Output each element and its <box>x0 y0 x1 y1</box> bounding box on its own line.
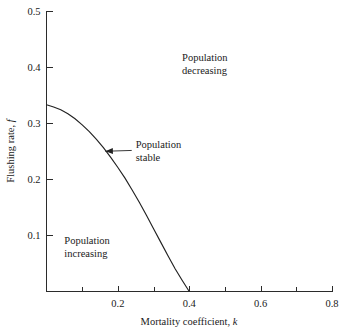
population-increasing-label: Populationincreasing <box>64 235 110 259</box>
population-stable-leader <box>105 148 131 154</box>
population-stable-label: Populationstable <box>136 139 182 163</box>
x-axis-title-text: Mortality coefficient, <box>141 316 231 327</box>
x-tick-label: 0.2 <box>111 298 124 309</box>
population-stable-line1: Population <box>136 139 182 150</box>
x-tick-label: 0.6 <box>254 298 267 309</box>
population-increasing-line2: increasing <box>64 248 108 259</box>
chart-figure: 0.20.40.60.8 0.10.20.30.40.5 Mortality c… <box>0 0 339 333</box>
y-axis-ticks <box>47 12 53 236</box>
arrow-head-icon <box>105 148 113 154</box>
x-axis-title: Mortality coefficient, k <box>141 316 238 327</box>
population-decreasing-label: Populationdecreasing <box>182 52 228 76</box>
y-tick-label: 0.5 <box>27 6 40 17</box>
y-axis-title-symbol: f <box>5 117 16 122</box>
x-axis-ticks <box>83 286 333 292</box>
y-axis-tick-labels: 0.10.20.30.40.5 <box>27 6 41 241</box>
population-decreasing-line1: Population <box>182 52 228 63</box>
y-tick-label: 0.2 <box>27 174 40 185</box>
x-tick-label: 0.4 <box>183 298 197 309</box>
y-axis-title-text: Flushing rate, <box>5 125 16 183</box>
population-stable-curve <box>47 105 190 292</box>
axis-titles: Mortality coefficient, k Flushing rate, … <box>5 117 238 327</box>
y-tick-label: 0.3 <box>27 118 40 129</box>
x-axis-tick-labels: 0.20.40.60.8 <box>111 298 338 309</box>
population-increasing-line1: Population <box>64 235 110 246</box>
y-tick-label: 0.1 <box>27 230 40 241</box>
population-stable-line2: stable <box>136 152 161 163</box>
x-axis-title-symbol: k <box>233 316 238 327</box>
region-annotations: PopulationdecreasingPopulationstablePopu… <box>64 52 228 258</box>
population-decreasing-line2: decreasing <box>182 65 228 76</box>
y-tick-label: 0.4 <box>27 62 41 73</box>
plot-canvas: 0.20.40.60.8 0.10.20.30.40.5 Mortality c… <box>0 0 339 333</box>
x-tick-label: 0.8 <box>325 298 338 309</box>
y-axis-title: Flushing rate, f <box>5 117 16 182</box>
